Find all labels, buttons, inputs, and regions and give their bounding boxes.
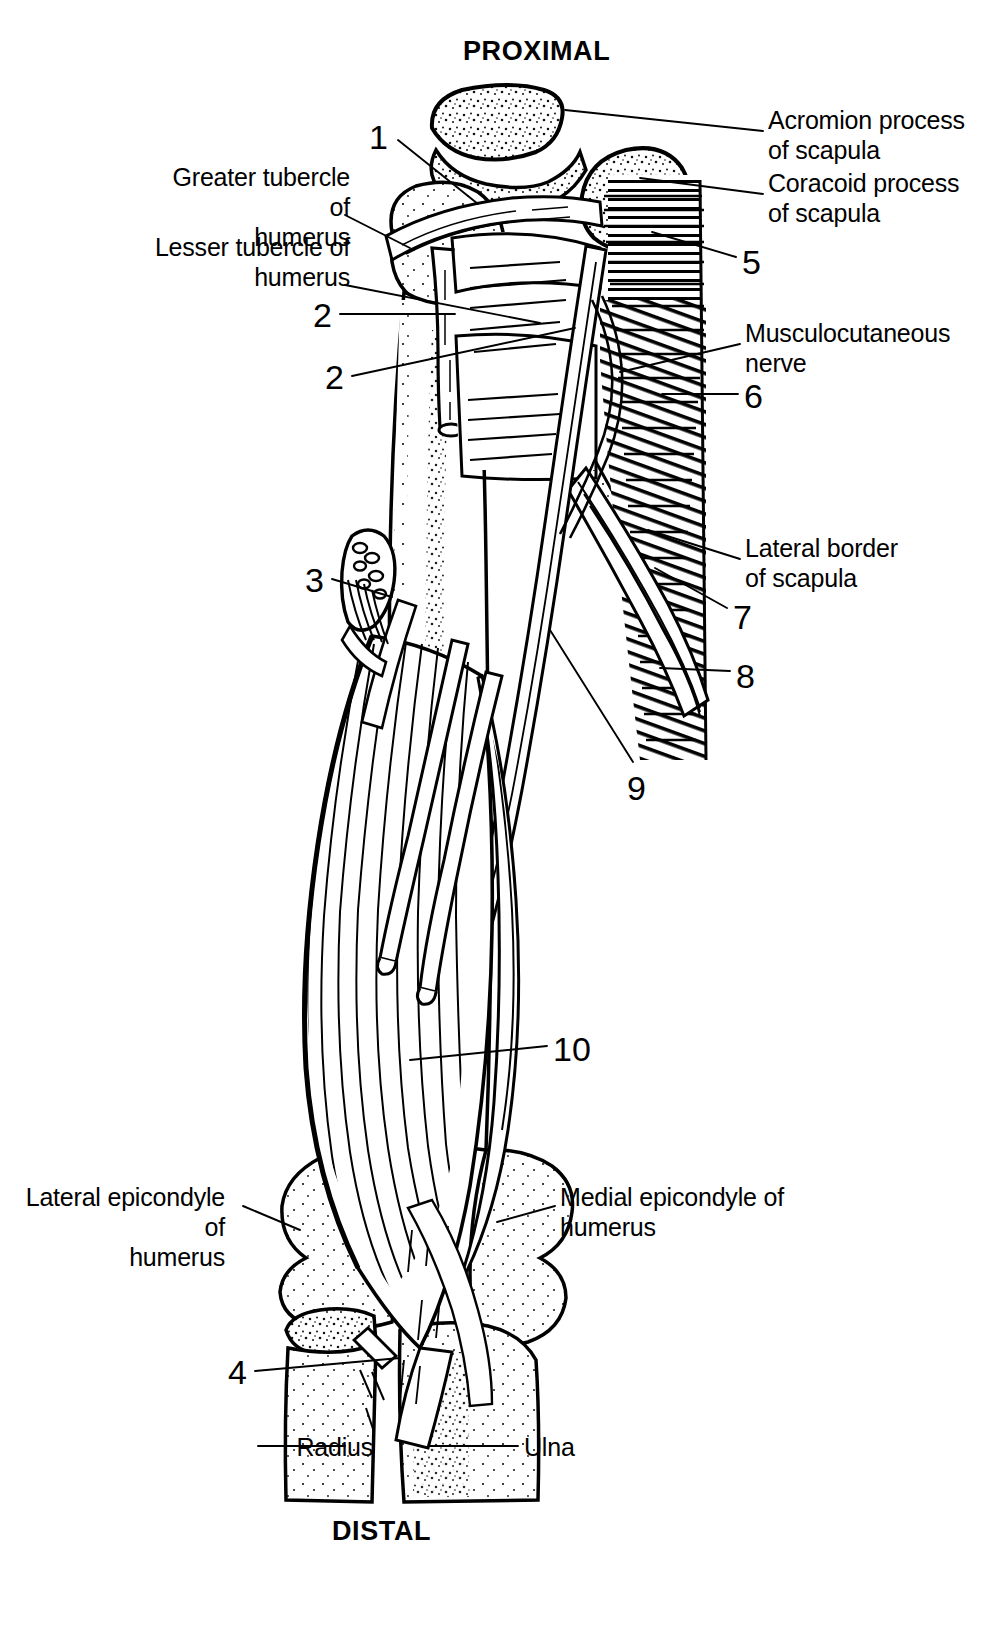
number-label-6-6: 6 [744,379,763,413]
acromion-process-shape [432,85,563,160]
number-label-9-9: 9 [627,771,646,805]
orientation-distal: DISTAL [332,1516,431,1547]
label-musculocutaneous: Musculocutaneous nerve [745,318,950,378]
number-label-1-0: 1 [369,120,388,154]
number-label-7-7: 7 [733,600,752,634]
number-label-3-3: 3 [305,563,324,597]
leader-number-9-9 [550,630,633,762]
label-coracoid: Coracoid process of scapula [768,168,959,228]
label-acromion: Acromion process of scapula [768,105,965,165]
label-radius: Radius [173,1432,373,1462]
label-ulna: Ulna [524,1432,575,1462]
leader-acromion [565,110,763,131]
label-lesser-tubercle: Lesser tubercle of humerus [150,232,350,292]
number-label-2-1: 2 [313,298,332,332]
number-label-10-10: 10 [553,1032,591,1066]
anatomy-figure: PROXIMAL DISTAL Acromion process of scap… [0,0,994,1626]
label-medial-epi: Medial epicondyle of humerus [560,1182,784,1242]
label-lateral-epi: Lateral epicondyle of humerus [25,1182,225,1272]
number-label-4-4: 4 [228,1355,247,1389]
number-label-2-2: 2 [325,360,344,394]
label-lateral-border: Lateral border of scapula [745,533,898,593]
number-label-8-8: 8 [736,659,755,693]
orientation-proximal: PROXIMAL [463,36,610,67]
number-label-5-5: 5 [742,245,761,279]
